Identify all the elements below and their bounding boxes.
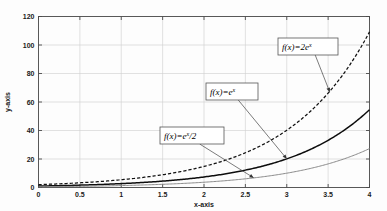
- y-tick-label: 0: [31, 184, 35, 191]
- x-tick-label: 1.5: [158, 191, 168, 198]
- annot-ex-label: f(x)=ex: [210, 87, 236, 97]
- annot-ex2-label: f(x)=ex/2: [164, 131, 197, 141]
- y-tick-label: 60: [27, 99, 35, 106]
- y-tick-label: 100: [23, 42, 35, 49]
- x-tick-label: 1: [119, 191, 123, 198]
- x-tick-label: 0.5: [75, 191, 85, 198]
- chart-figure: 00.511.522.533.54 020406080100120 f(x)=2…: [0, 0, 387, 211]
- exponential-functions-plot: 00.511.522.533.54 020406080100120 f(x)=2…: [0, 0, 387, 211]
- x-tick-label: 4: [368, 191, 372, 198]
- y-tick-label: 20: [27, 156, 35, 163]
- y-tick-label: 40: [27, 127, 35, 134]
- x-axis-title: x-axis: [194, 201, 214, 208]
- y-tick-label: 120: [23, 13, 35, 20]
- x-tick-label: 0: [37, 191, 41, 198]
- figure-background: [0, 0, 387, 211]
- x-tick-label: 3: [285, 191, 289, 198]
- x-tick-label: 2: [202, 191, 206, 198]
- x-tick-label: 3.5: [323, 191, 333, 198]
- y-tick-label: 80: [27, 70, 35, 77]
- annot-2ex-label: f(x)=2ex: [282, 42, 312, 52]
- y-axis-title: y-axis: [4, 92, 12, 112]
- x-tick-label: 2.5: [241, 191, 251, 198]
